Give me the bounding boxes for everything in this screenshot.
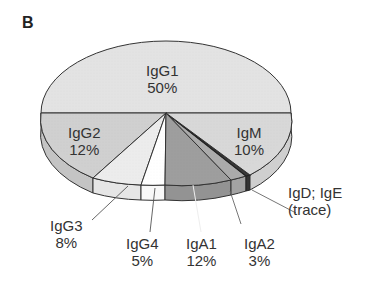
- label-iga2: IgA2 3%: [244, 235, 275, 269]
- leader-iga2: [230, 191, 241, 224]
- rim-igg4: [141, 185, 165, 200]
- label-igm-pct: 10%: [234, 141, 264, 158]
- label-iga2-pct: 3%: [244, 252, 275, 269]
- label-igg3: IgG3 8%: [50, 217, 83, 251]
- label-igde: IgD; IgE (trace): [288, 184, 342, 218]
- label-iga2-name: IgA2: [244, 235, 275, 252]
- label-igg3-pct: 8%: [50, 234, 83, 251]
- label-iga1-name: IgA1: [186, 235, 217, 252]
- label-igm: IgM 10%: [234, 124, 264, 158]
- label-igg4-pct: 5%: [126, 252, 159, 269]
- label-igg1-pct: 50%: [146, 79, 179, 96]
- label-igg4: IgG4 5%: [126, 235, 159, 269]
- label-iga1-pct: 12%: [186, 252, 217, 269]
- label-igde-pct: (trace): [288, 201, 342, 218]
- label-igg4-name: IgG4: [126, 235, 159, 252]
- rim-igde: [246, 175, 250, 191]
- label-igm-name: IgM: [234, 124, 264, 141]
- label-igg2-name: IgG2: [68, 124, 101, 141]
- label-igg1-name: IgG1: [146, 62, 179, 79]
- label-igg2: IgG2 12%: [68, 124, 101, 158]
- label-igde-name: IgD; IgE: [288, 184, 342, 201]
- label-igg3-name: IgG3: [50, 217, 83, 234]
- label-igg1: IgG1 50%: [146, 62, 179, 96]
- label-igg2-pct: 12%: [68, 141, 101, 158]
- label-iga1: IgA1 12%: [186, 235, 217, 269]
